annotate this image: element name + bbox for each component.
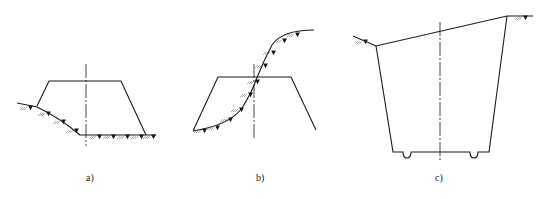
cross-section-diagram [0, 0, 546, 199]
panel-a-section [17, 64, 156, 146]
embankment-outline-a [37, 81, 146, 135]
panel-c-section [353, 16, 533, 162]
panel-b-label: b) [256, 172, 264, 183]
panel-c-label: c) [435, 172, 443, 183]
ground-line-a [17, 103, 156, 135]
cutting-outline-c [376, 16, 507, 158]
ground-curve-b [193, 30, 314, 131]
panel-b-section [193, 30, 316, 140]
panel-a-label: a) [86, 172, 94, 183]
